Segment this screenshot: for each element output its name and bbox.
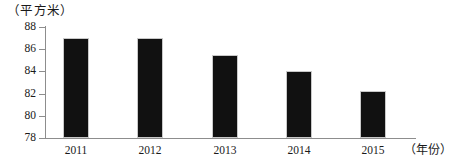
- y-tick-mark: [39, 27, 45, 28]
- y-tick-label: 80: [6, 110, 36, 121]
- y-tick-label: 86: [6, 43, 36, 54]
- y-tick-mark: [39, 49, 45, 50]
- x-tick-label: 2014: [269, 143, 329, 157]
- bar: [286, 71, 312, 138]
- y-tick-mark: [39, 94, 45, 95]
- y-tick-mark: [39, 116, 45, 117]
- y-tick-mark: [39, 138, 45, 139]
- y-tick-label: 84: [6, 65, 36, 76]
- bar: [137, 38, 163, 138]
- y-tick-mark: [39, 71, 45, 72]
- x-axis-title: （年份）: [404, 143, 452, 157]
- y-tick-label: 82: [6, 88, 36, 99]
- y-tick-label: 88: [6, 21, 36, 32]
- y-tick-label: 78: [6, 132, 36, 143]
- x-tick-label: 2015: [343, 143, 403, 157]
- y-axis-unit-label: （平方米）: [7, 3, 74, 19]
- x-tick-label: 2012: [120, 143, 180, 157]
- bar: [360, 91, 386, 138]
- x-axis-line: [45, 138, 416, 139]
- bar-chart: （平方米） 888684828078 20112012201320142015 …: [0, 0, 456, 165]
- bar: [63, 38, 89, 138]
- y-axis-line: [45, 26, 46, 139]
- x-tick-label: 2013: [195, 143, 255, 157]
- bar: [212, 55, 238, 138]
- x-tick-label: 2011: [46, 143, 106, 157]
